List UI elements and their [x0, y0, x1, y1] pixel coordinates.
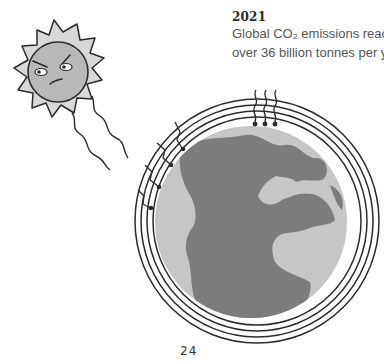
caption-line-1: Global CO₂ emissions reach	[232, 25, 384, 43]
earth-globe-icon	[155, 126, 347, 330]
heat-waves-icon	[72, 96, 128, 170]
caption-line-2: over 36 billion tonnes per year.	[232, 44, 384, 62]
page-number: 24	[180, 344, 197, 358]
top-heat-arrows	[253, 90, 277, 126]
caption-block: 2021 Global CO₂ emissions reach over 36 …	[232, 10, 384, 62]
angry-sun-icon	[14, 20, 104, 117]
caption-year: 2021	[232, 10, 384, 24]
